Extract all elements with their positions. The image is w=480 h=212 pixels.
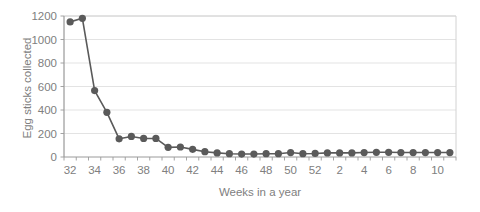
data-point-marker [152, 135, 159, 142]
data-point-marker [140, 135, 147, 142]
x-tick-label: 34 [88, 164, 101, 176]
data-point-marker [226, 150, 233, 157]
data-point-marker [348, 149, 355, 156]
data-point-marker [263, 150, 270, 157]
data-point-marker [128, 133, 135, 140]
data-point-marker [446, 149, 453, 156]
y-tick-label: 800 [38, 57, 57, 69]
y-tick-label: 200 [38, 128, 57, 140]
y-tick-label: 400 [38, 104, 57, 116]
data-point-marker [250, 150, 257, 157]
x-tick-label: 32 [64, 164, 77, 176]
data-point-marker [275, 150, 282, 157]
x-tick-label: 50 [284, 164, 297, 176]
y-tick-label: 1200 [31, 10, 57, 22]
chart-background [0, 0, 480, 212]
x-tick-label: 48 [260, 164, 273, 176]
data-point-marker [116, 135, 123, 142]
data-point-marker [299, 150, 306, 157]
y-tick-label: 600 [38, 81, 57, 93]
data-point-marker [336, 149, 343, 156]
data-point-marker [397, 149, 404, 156]
data-point-marker [79, 15, 86, 22]
data-point-marker [189, 146, 196, 153]
x-tick-label: 10 [431, 164, 444, 176]
x-tick-label: 6 [385, 164, 391, 176]
x-tick-label: 38 [137, 164, 150, 176]
y-tick-label: 1000 [31, 34, 57, 46]
data-point-marker [324, 149, 331, 156]
y-tick-label: 0 [51, 151, 57, 163]
data-point-marker [67, 18, 74, 25]
x-tick-label: 44 [211, 164, 224, 176]
data-point-marker [214, 149, 221, 156]
x-tick-label: 8 [410, 164, 416, 176]
data-point-marker [103, 109, 110, 116]
data-point-marker [238, 150, 245, 157]
data-point-marker [361, 149, 368, 156]
x-tick-label: 42 [186, 164, 199, 176]
y-axis-title: Egg sticks collected [21, 38, 33, 139]
data-point-marker [201, 148, 208, 155]
x-tick-label: 36 [113, 164, 126, 176]
data-point-marker [422, 149, 429, 156]
data-point-marker [177, 143, 184, 150]
chart-container: 020040060080010001200 323436384042444648… [0, 0, 480, 212]
data-point-marker [287, 149, 294, 156]
egg-sticks-line-chart: 020040060080010001200 323436384042444648… [0, 0, 480, 212]
data-point-marker [373, 149, 380, 156]
x-tick-label: 4 [361, 164, 368, 176]
x-tick-label: 46 [235, 164, 248, 176]
data-point-marker [434, 149, 441, 156]
data-point-marker [410, 149, 417, 156]
x-tick-label: 40 [162, 164, 175, 176]
data-point-marker [385, 149, 392, 156]
x-tick-label: 52 [309, 164, 322, 176]
data-point-marker [91, 87, 98, 94]
data-point-marker [312, 150, 319, 157]
data-point-marker [165, 144, 172, 151]
x-tick-label: 2 [336, 164, 342, 176]
x-axis-title: Weeks in a year [219, 186, 301, 198]
